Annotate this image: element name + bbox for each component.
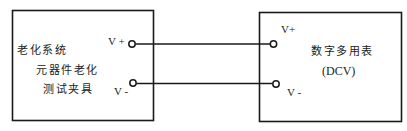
right-negative-label: V - [287,87,301,98]
right-positive-terminal [270,41,276,47]
fixture-label-line2: 测试夹具 [43,84,93,95]
left-negative-label: V - [114,86,128,97]
multimeter-title: 数字多用表 [311,46,374,57]
aging-system-title: 老化系统 [17,45,67,56]
multimeter-mode: (DCV) [322,65,355,77]
fixture-label-line1: 元器件老化 [36,65,99,76]
left-positive-label: V + [108,36,125,47]
right-negative-terminal [273,81,279,87]
right-positive-label: V+ [281,24,295,35]
left-positive-terminal [129,41,135,47]
left-negative-terminal [130,80,136,86]
